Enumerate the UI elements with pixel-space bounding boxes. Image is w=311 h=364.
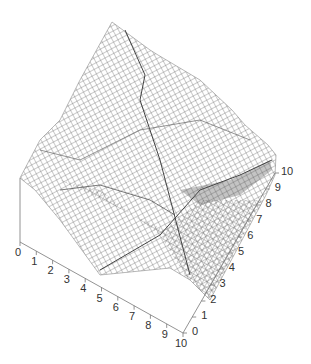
y-axis-tick-label: 9 xyxy=(275,181,281,193)
x-axis-tick-label: 9 xyxy=(162,328,168,340)
y-axis-tick-label: 6 xyxy=(247,229,253,241)
y-axis-tick-label: 10 xyxy=(281,165,293,177)
x-axis-tick-label: 6 xyxy=(113,301,119,313)
x-axis-tick-label: 0 xyxy=(15,246,21,258)
y-axis-tick-label: 2 xyxy=(210,293,216,305)
x-axis-tick-label: 10 xyxy=(175,337,187,349)
x-axis-tick-label: 4 xyxy=(80,282,86,294)
y-axis-tick-label: 0 xyxy=(192,325,198,337)
y-axis-tick-label: 5 xyxy=(238,245,244,257)
y-axis-tick-label: 4 xyxy=(229,261,235,273)
y-axis-tick-label: 8 xyxy=(266,197,272,209)
surface-mesh xyxy=(20,22,276,300)
y-axis-tick-label: 1 xyxy=(201,309,207,321)
x-axis-tick-label: 8 xyxy=(145,319,151,331)
x-axis-tick-label: 7 xyxy=(129,310,135,322)
x-axis-tick-label: 1 xyxy=(31,255,37,267)
surface-plot: 012345678910 012345678910 xyxy=(0,0,311,364)
y-axis-tick-label: 3 xyxy=(220,277,226,289)
x-axis-tick-label: 2 xyxy=(48,264,54,276)
x-axis-tick-label: 3 xyxy=(64,273,70,285)
y-axis-tick-label: 7 xyxy=(256,213,262,225)
x-axis-tick-label: 5 xyxy=(96,292,102,304)
